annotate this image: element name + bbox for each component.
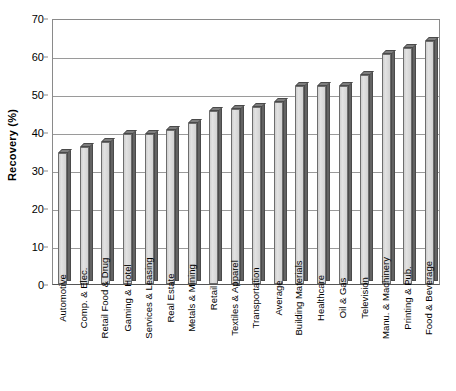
x-tick-label-text: Printing & Pub. bbox=[403, 266, 413, 329]
y-tick-label: 10 bbox=[32, 242, 44, 253]
x-tick-label-text: Retail Food & Drug bbox=[101, 258, 111, 339]
x-tick-label: Retail Food & Drug bbox=[95, 288, 117, 388]
x-tick-label: Automotive bbox=[52, 288, 74, 388]
x-tick-label: Oil & Gas bbox=[332, 288, 354, 388]
bar bbox=[382, 50, 395, 284]
y-tick-label: 70 bbox=[32, 14, 44, 25]
x-tick-label: Retail bbox=[203, 288, 225, 388]
bar-side-shadow bbox=[240, 106, 244, 281]
bar-side-shadow bbox=[434, 38, 438, 281]
bar bbox=[123, 130, 136, 284]
bar bbox=[80, 143, 93, 284]
x-tick-label: Real Estate bbox=[160, 288, 182, 388]
bar-chart: Recovery (%) 010203040506070 AutomotiveC… bbox=[0, 0, 456, 391]
y-tick-label: 20 bbox=[32, 204, 44, 215]
y-axis-title-text: Recovery (%) bbox=[6, 109, 18, 181]
x-tick-label: Printing & Pub. bbox=[397, 288, 419, 388]
bar-side-shadow bbox=[110, 139, 114, 282]
y-tick-label: 60 bbox=[32, 52, 44, 63]
bars-layer bbox=[53, 20, 439, 284]
y-tick-mark bbox=[44, 285, 48, 286]
x-tick-label: Healthcare bbox=[311, 288, 333, 388]
bar-side-shadow bbox=[175, 127, 179, 281]
x-tick-label: Manu. & Machinery bbox=[375, 288, 397, 388]
bar bbox=[58, 149, 71, 284]
bar-face bbox=[403, 48, 412, 284]
bar-face bbox=[58, 153, 67, 284]
x-tick-label-text: Oil & Gas bbox=[338, 278, 348, 319]
x-tick-label-text: Building Materials bbox=[295, 261, 305, 336]
bar-face bbox=[252, 107, 261, 284]
x-tick-label: Transportation bbox=[246, 288, 268, 388]
x-tick-label-text: Healthcare bbox=[316, 275, 326, 321]
y-axis-tick-labels: 010203040506070 bbox=[22, 19, 48, 285]
x-tick-label-text: Automotive bbox=[58, 274, 68, 322]
bar-side-shadow bbox=[326, 83, 330, 281]
x-tick-label-text: Services & Leasing bbox=[144, 257, 154, 338]
bar-face bbox=[188, 123, 197, 285]
bar-face bbox=[295, 86, 304, 284]
x-tick-label-text: Television bbox=[360, 277, 370, 319]
y-tick-mark bbox=[44, 95, 48, 96]
bar-face bbox=[209, 111, 218, 284]
bar-side-shadow bbox=[154, 131, 158, 281]
y-tick-label: 50 bbox=[32, 90, 44, 101]
bar bbox=[295, 82, 308, 284]
bar bbox=[274, 98, 287, 284]
bar bbox=[403, 44, 416, 284]
bar-face bbox=[274, 102, 283, 284]
x-tick-label: Food & Beverage bbox=[418, 288, 440, 388]
bar-side-shadow bbox=[391, 51, 395, 281]
y-tick-label: 40 bbox=[32, 128, 44, 139]
x-tick-label-text: Manu. & Machinery bbox=[381, 257, 391, 339]
y-tick-label: 30 bbox=[32, 166, 44, 177]
bar bbox=[209, 107, 222, 284]
x-tick-label-text: Transportation bbox=[252, 268, 262, 329]
bar bbox=[360, 71, 373, 284]
x-tick-label: Television bbox=[354, 288, 376, 388]
bar bbox=[188, 119, 201, 285]
x-axis-tick-labels: AutomotiveComp. & Elec.Retail Food & Dru… bbox=[52, 288, 440, 391]
y-tick-mark bbox=[44, 247, 48, 248]
bar-side-shadow bbox=[197, 120, 201, 282]
bar-side-shadow bbox=[67, 150, 71, 281]
bar bbox=[252, 103, 265, 284]
bar bbox=[317, 82, 330, 284]
x-tick-label-text: Retail bbox=[209, 286, 219, 310]
bar-side-shadow bbox=[369, 72, 373, 281]
bar bbox=[425, 37, 438, 284]
y-tick-mark bbox=[44, 209, 48, 210]
x-tick-label-text: Average bbox=[273, 280, 283, 315]
bar-side-shadow bbox=[412, 45, 416, 281]
x-tick-label: Services & Leasing bbox=[138, 288, 160, 388]
bar-side-shadow bbox=[283, 99, 287, 281]
plot-area bbox=[52, 19, 440, 285]
x-tick-label-text: Gaming & Hotel bbox=[122, 264, 132, 331]
bar-face bbox=[425, 41, 434, 284]
bar-side-shadow bbox=[348, 83, 352, 281]
bar-side-shadow bbox=[89, 144, 93, 281]
bar-side-shadow bbox=[132, 131, 136, 281]
y-tick-mark bbox=[44, 171, 48, 172]
bar-face bbox=[123, 134, 132, 284]
x-tick-label: Comp. & Elec. bbox=[74, 288, 96, 388]
x-tick-label-text: Textiles & Apparel bbox=[230, 260, 240, 336]
bar-face bbox=[80, 147, 89, 284]
bar-face bbox=[166, 130, 175, 284]
bar-face bbox=[317, 86, 326, 284]
bar bbox=[339, 82, 352, 284]
x-tick-label: Gaming & Hotel bbox=[117, 288, 139, 388]
x-tick-label-text: Comp. & Elec. bbox=[79, 268, 89, 329]
x-tick-label: Metals & Mining bbox=[181, 288, 203, 388]
x-tick-label: Textiles & Apparel bbox=[224, 288, 246, 388]
bar-side-shadow bbox=[261, 104, 265, 281]
x-tick-label-text: Real Estate bbox=[166, 273, 176, 322]
y-tick-mark bbox=[44, 57, 48, 58]
y-axis-title: Recovery (%) bbox=[2, 0, 22, 290]
x-tick-label-text: Metals & Mining bbox=[187, 264, 197, 332]
bar-face bbox=[360, 75, 369, 284]
bar-face bbox=[339, 86, 348, 284]
bar-face bbox=[382, 54, 391, 284]
bar bbox=[231, 105, 244, 284]
bar bbox=[166, 126, 179, 284]
